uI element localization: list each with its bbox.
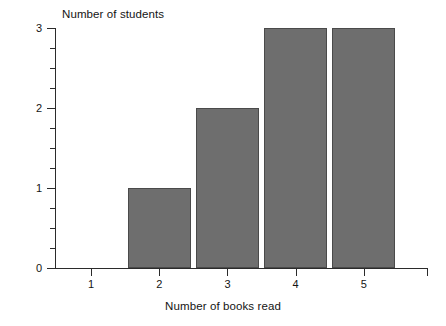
y-axis-labels: 0123: [26, 0, 42, 326]
x-axis-tick-label: 1: [76, 278, 106, 290]
x-axis-line: [55, 268, 428, 269]
x-axis-tick: [227, 269, 228, 276]
y-axis-minor-tick: [50, 68, 55, 69]
y-axis-major-tick: [47, 28, 55, 29]
bar: [332, 28, 395, 268]
x-axis-tick: [364, 269, 365, 276]
y-axis-minor-tick: [50, 208, 55, 209]
y-axis-tick-label: 3: [28, 22, 42, 34]
y-axis-minor-tick: [50, 228, 55, 229]
y-axis-major-tick: [47, 188, 55, 189]
y-axis-tick-label: 1: [28, 182, 42, 194]
y-axis-tick-label: 0: [28, 262, 42, 274]
y-axis-tick-label: 2: [28, 102, 42, 114]
x-axis-tick-label: 4: [281, 278, 311, 290]
bar: [128, 188, 191, 268]
y-axis-title: Number of students: [62, 8, 164, 20]
bar: [196, 108, 259, 268]
y-axis-major-tick: [47, 268, 55, 269]
x-axis-tick-label: 2: [144, 278, 174, 290]
y-axis-line: [55, 28, 56, 269]
x-axis-tick: [91, 269, 92, 276]
y-axis-minor-tick: [50, 128, 55, 129]
bar-chart: Number of students 0123 12345 Number of …: [0, 0, 446, 326]
bar: [264, 28, 327, 268]
y-axis-minor-tick: [50, 48, 55, 49]
x-axis-tick-label: 3: [212, 278, 242, 290]
x-axis-title: Number of books read: [0, 300, 446, 312]
x-axis-end-tick: [427, 269, 428, 276]
x-axis-tick: [159, 269, 160, 276]
y-axis-minor-tick: [50, 88, 55, 89]
y-axis-minor-tick: [50, 248, 55, 249]
x-axis-tick-label: 5: [349, 278, 379, 290]
y-axis-minor-tick: [50, 148, 55, 149]
x-axis-tick: [296, 269, 297, 276]
y-axis-minor-tick: [50, 168, 55, 169]
y-axis-major-tick: [47, 108, 55, 109]
